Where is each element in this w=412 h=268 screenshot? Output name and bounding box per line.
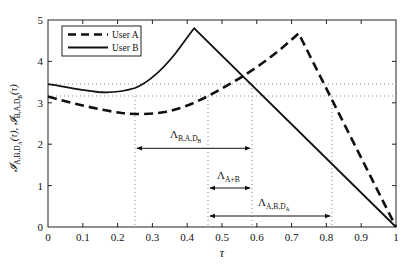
x-tick-labels: 0 0.1 0.2 0.3 0.4 0.5 0.6 0.7 0.8 0.9 1 [45,231,399,243]
svg-text:0.7: 0.7 [285,231,299,243]
svg-text:0.8: 0.8 [320,231,334,243]
chart: 0 0.1 0.2 0.3 0.4 0.5 0.6 0.7 0.8 0.9 1 … [0,0,412,268]
svg-text:0.3: 0.3 [146,231,160,243]
svg-text:0: 0 [38,221,44,233]
svg-text:0: 0 [45,231,51,243]
svg-text:3: 3 [38,97,44,109]
svg-text:0.4: 0.4 [180,231,194,243]
x-axis-label: τ [220,246,225,260]
svg-text:0.1: 0.1 [76,231,90,243]
svg-text:1: 1 [393,231,399,243]
legend: User A User B [62,26,141,56]
svg-text:0.6: 0.6 [250,231,264,243]
svg-text:1: 1 [38,180,44,192]
svg-text:0.9: 0.9 [354,231,368,243]
y-tick-labels: 0 1 2 3 4 5 [38,14,44,233]
svg-text:4: 4 [38,55,44,67]
svg-text:0.5: 0.5 [215,231,229,243]
legend-user-b-label: User B [112,43,139,53]
svg-text:5: 5 [38,14,44,26]
legend-user-a-label: User A [112,30,139,40]
y-axis-label: 𝓘A,B,DA(τ), 𝓘B,A,DB(τ) [8,84,23,172]
svg-text:2: 2 [38,138,44,150]
svg-text:0.2: 0.2 [111,231,125,243]
